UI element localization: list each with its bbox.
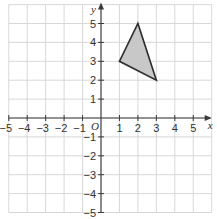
y-tick-label: 4 bbox=[90, 36, 96, 48]
y-tick-label: −5 bbox=[83, 207, 96, 219]
x-tick-label: −4 bbox=[18, 122, 31, 134]
x-tick-label: −2 bbox=[55, 122, 68, 134]
coordinate-grid-chart: −5−4−3−2−112345−5−4−3−2−112345 x y O bbox=[0, 0, 217, 219]
y-tick-label: −2 bbox=[83, 150, 96, 162]
x-tick-label: 2 bbox=[135, 122, 141, 134]
x-axis-label: x bbox=[207, 119, 213, 131]
y-tick-label: 3 bbox=[90, 55, 96, 67]
x-tick-label: −5 bbox=[0, 122, 12, 134]
axes bbox=[9, 3, 212, 213]
origin-label: O bbox=[91, 120, 99, 132]
x-tick-label: 1 bbox=[116, 122, 122, 134]
y-axis-label: y bbox=[90, 3, 96, 15]
y-tick-label: −3 bbox=[83, 169, 96, 181]
x-tick-label: 3 bbox=[153, 122, 159, 134]
grid-lines bbox=[9, 5, 212, 213]
y-axis-arrow-icon bbox=[98, 3, 104, 10]
x-tick-label: −3 bbox=[36, 122, 49, 134]
y-tick-label: 5 bbox=[90, 18, 96, 30]
x-tick-label: 5 bbox=[190, 122, 196, 134]
x-tick-label: 4 bbox=[172, 122, 178, 134]
y-tick-label: 1 bbox=[90, 93, 96, 105]
y-tick-label: −4 bbox=[83, 188, 96, 200]
y-tick-label: 2 bbox=[90, 74, 96, 86]
y-tick-label: −1 bbox=[83, 131, 96, 143]
